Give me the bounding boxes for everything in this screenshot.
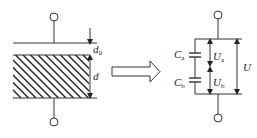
bottom-terminal-icon xyxy=(214,114,222,122)
hatch-line xyxy=(0,55,14,98)
voltage-total-label: U xyxy=(243,61,252,73)
capacitor-a-label: Ca xyxy=(174,48,185,62)
capacitor-b-icon xyxy=(189,78,201,82)
top-terminal-icon xyxy=(214,11,222,19)
hatch-line xyxy=(0,55,21,98)
top-terminal-icon xyxy=(50,13,58,21)
voltage-b-label: Ub xyxy=(213,76,225,90)
dielectric-label: d xyxy=(93,70,99,82)
voltage-a-label: Ua xyxy=(213,50,225,64)
equivalent-arrow-icon xyxy=(112,61,160,82)
gap-label: d0 xyxy=(93,43,103,57)
capacitor-b-label: Cb xyxy=(174,76,185,90)
capacitor-a-icon xyxy=(189,53,201,57)
equivalent-circuit: Ca Cb Ua Ub U xyxy=(174,11,252,122)
hatch-line xyxy=(0,55,6,98)
bottom-terminal-icon xyxy=(50,118,58,126)
hatch-line xyxy=(0,55,36,98)
capacitor-diagram: d0 d Ca Cb Ua Ub U xyxy=(0,0,257,138)
